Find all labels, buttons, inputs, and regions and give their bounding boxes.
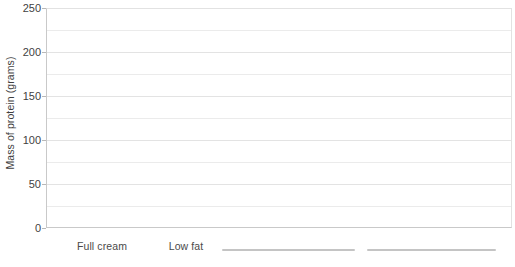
plot-area: [46, 8, 512, 228]
gridline-75: [47, 162, 511, 163]
gridline-150: [47, 96, 511, 97]
bar-chart-figure: Mass of protein (grams) 250 200 150 100 …: [0, 0, 515, 267]
y-tick-label-50: 50: [0, 179, 41, 190]
gridline-175: [47, 74, 511, 75]
y-tick-label-250: 250: [0, 3, 41, 14]
y-tick-label-150: 150: [0, 91, 41, 102]
x-category-blank-rule-3[interactable]: [222, 249, 355, 251]
gridline-100: [47, 140, 511, 141]
y-tick-label-0: 0: [0, 223, 41, 234]
gridline-225: [47, 30, 511, 31]
gridline-200: [47, 52, 511, 53]
gridline-50: [47, 184, 511, 185]
x-category-label-low-fat: Low fat: [141, 240, 231, 252]
y-tick-label-200: 200: [0, 47, 41, 58]
y-tick-label-100: 100: [0, 135, 41, 146]
x-category-blank-rule-4[interactable]: [367, 249, 496, 251]
y-axis-title: Mass of protein (grams): [3, 0, 17, 228]
gridline-125: [47, 118, 511, 119]
cropped-caption: [0, 260, 515, 267]
y-tick-mark-0: [42, 228, 46, 229]
gridline-25: [47, 206, 511, 207]
